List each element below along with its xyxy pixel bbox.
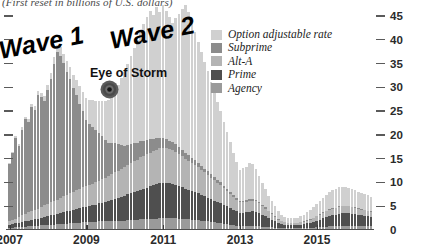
y-tick-label: 25 bbox=[390, 105, 403, 117]
y-tick-left bbox=[4, 206, 13, 207]
bar-column bbox=[370, 197, 373, 230]
x-tick-mark bbox=[240, 225, 241, 230]
legend-item: Prime bbox=[211, 68, 332, 81]
y-tick-label: 0 bbox=[390, 224, 396, 236]
mortgage-reset-chart: (First reset in billions of U.S. dollars… bbox=[0, 0, 425, 251]
y-tick-left bbox=[4, 182, 13, 183]
legend-item: Alt-A bbox=[211, 55, 332, 68]
y-tick-right bbox=[376, 87, 385, 88]
y-tick-right bbox=[376, 110, 385, 111]
legend-item: Agency bbox=[211, 82, 332, 95]
x-tick-label: 2009 bbox=[73, 233, 100, 247]
y-tick-left bbox=[4, 134, 13, 135]
y-tick-left bbox=[4, 158, 13, 159]
y-tick-left bbox=[4, 110, 13, 111]
y-tick-left bbox=[4, 87, 13, 88]
x-tick-label: 2015 bbox=[304, 233, 331, 247]
y-tick-right bbox=[376, 158, 385, 159]
legend-swatch bbox=[211, 43, 222, 53]
y-tick-right bbox=[376, 134, 385, 135]
legend-label: Prime bbox=[228, 69, 256, 81]
x-tick-mark bbox=[317, 225, 318, 230]
legend-item: Subprime bbox=[211, 41, 332, 54]
y-tick-label: 35 bbox=[390, 58, 403, 70]
chart-legend: Option adjustable rateSubprimeAlt-APrime… bbox=[211, 28, 332, 95]
legend-label: Option adjustable rate bbox=[228, 29, 332, 41]
y-tick-label: 15 bbox=[390, 153, 403, 165]
x-tick-mark bbox=[163, 225, 164, 230]
y-tick-label: 45 bbox=[390, 10, 403, 22]
x-tick-mark bbox=[10, 225, 11, 230]
x-tick-label: 2013 bbox=[227, 233, 254, 247]
legend-label: Alt-A bbox=[228, 56, 252, 68]
legend-swatch bbox=[211, 70, 222, 80]
y-tick-label: 40 bbox=[390, 34, 403, 46]
bar-segment bbox=[370, 197, 373, 212]
y-tick-right bbox=[376, 39, 385, 40]
y-tick-right bbox=[376, 63, 385, 64]
x-tick-mark bbox=[86, 225, 87, 230]
annotation-eye-of-storm: Eye of Storm bbox=[90, 66, 167, 80]
x-tick-label: 2007 bbox=[0, 233, 23, 247]
legend-swatch bbox=[211, 30, 222, 40]
legend-swatch bbox=[211, 83, 222, 93]
y-tick-label: 20 bbox=[390, 129, 403, 141]
y-tick-right bbox=[376, 182, 385, 183]
y-tick-left bbox=[4, 15, 13, 16]
y-tick-right bbox=[376, 15, 385, 16]
bar-segment bbox=[370, 217, 373, 226]
y-tick-right bbox=[376, 206, 385, 207]
y-tick-label: 30 bbox=[390, 81, 403, 93]
x-tick-label: 2011 bbox=[150, 233, 176, 247]
legend-item: Option adjustable rate bbox=[211, 28, 332, 41]
y-tick-label: 5 bbox=[390, 200, 396, 212]
legend-label: Agency bbox=[228, 83, 262, 95]
legend-swatch bbox=[211, 56, 222, 66]
storm-eye-icon bbox=[100, 80, 119, 99]
chart-subtitle: (First reset in billions of U.S. dollars… bbox=[2, 0, 173, 8]
x-axis-baseline bbox=[6, 229, 374, 230]
legend-label: Subprime bbox=[228, 42, 272, 54]
y-tick-label: 10 bbox=[390, 176, 403, 188]
